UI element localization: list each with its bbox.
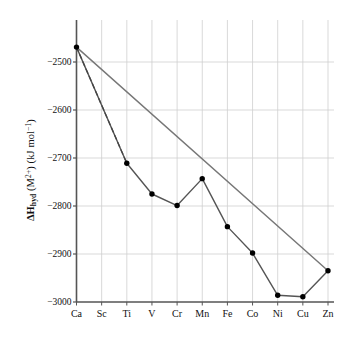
y-tick-label: −2700: [47, 153, 72, 163]
x-tick-label: Zn: [322, 308, 333, 319]
data-point-marker: [275, 293, 280, 298]
x-tick-label: Sc: [97, 308, 108, 319]
y-tick-label: −2800: [47, 201, 72, 211]
data-point-marker: [250, 250, 255, 255]
x-tick-label: Ca: [71, 308, 83, 319]
data-point-marker: [124, 161, 129, 166]
x-tick-label: Fe: [222, 308, 233, 319]
axes-lines-group: [73, 20, 334, 306]
x-tick-label: V: [148, 308, 156, 319]
data-point-marker: [225, 224, 230, 229]
data-point-marker: [325, 268, 330, 273]
y-tick-label: −2900: [47, 249, 72, 259]
data-point-marker: [74, 44, 79, 49]
x-tick-label: Cu: [297, 308, 309, 319]
y-tick-label: −3000: [47, 297, 72, 307]
x-tick-label: Co: [247, 308, 259, 319]
x-tick-labels-group: CaScTiVCrMnFeCoNiCuZn: [71, 308, 334, 319]
x-tick-label: Mn: [195, 308, 209, 319]
y-tick-label: −2500: [47, 57, 72, 67]
data-point-marker: [300, 294, 305, 299]
x-tick-label: Ti: [123, 308, 132, 319]
data-point-marker: [200, 176, 205, 181]
x-tick-label: Ni: [273, 308, 283, 319]
y-tick-labels-group: −2500−2600−2700−2800−2900−3000: [47, 57, 72, 307]
hydration-enthalpy-chart: −2500−2600−2700−2800−2900−3000 CaScTiVCr…: [0, 0, 341, 341]
y-tick-label: −2600: [47, 105, 72, 115]
x-tick-label: Cr: [172, 308, 183, 319]
data-point-marker: [174, 203, 179, 208]
data-point-marker: [149, 191, 154, 196]
